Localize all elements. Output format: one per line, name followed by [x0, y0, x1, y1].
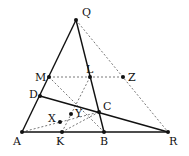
dashed-segment-LK	[62, 77, 90, 132]
label-Z: Z	[128, 71, 136, 84]
point-Y	[69, 112, 73, 116]
point-A	[20, 130, 24, 134]
label-D: D	[29, 88, 38, 101]
label-X: X	[48, 112, 56, 125]
label-B: B	[100, 135, 108, 148]
point-B	[102, 130, 106, 134]
label-K: K	[56, 135, 65, 148]
label-Y: Y	[74, 107, 83, 120]
label-A: A	[12, 135, 22, 148]
point-M	[47, 75, 51, 79]
point-C	[97, 110, 101, 114]
point-Q	[74, 18, 78, 22]
label-C: C	[103, 100, 111, 113]
label-M: M	[35, 71, 46, 84]
geometry-diagram: QMLZDCYXAKBR	[0, 0, 189, 156]
label-R: R	[169, 135, 178, 148]
point-X	[58, 120, 62, 124]
point-K	[60, 130, 64, 134]
label-L: L	[86, 63, 94, 76]
point-R	[166, 130, 170, 134]
label-Q: Q	[82, 6, 91, 19]
diagram-canvas: QMLZDCYXAKBR	[0, 0, 189, 156]
point-Z	[121, 75, 125, 79]
point-D	[38, 94, 42, 98]
